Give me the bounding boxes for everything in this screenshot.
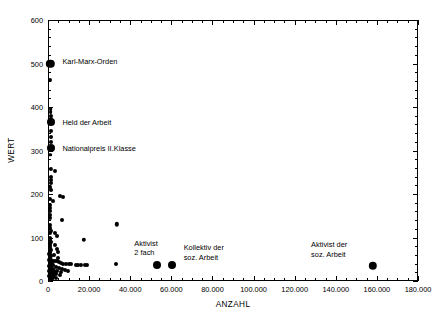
- y-tick-right: [415, 203, 418, 204]
- x-tick: [120, 278, 121, 281]
- x-tick-top: [408, 20, 409, 23]
- y-tick-right: [413, 64, 418, 65]
- y-tick-right: [415, 229, 418, 230]
- x-tick-top: [315, 20, 316, 23]
- y-tick-label: 500: [20, 59, 43, 68]
- x-tick-top: [202, 20, 203, 23]
- y-tick-right: [415, 116, 418, 117]
- y-tick-right: [415, 55, 418, 56]
- data-point: [168, 261, 176, 269]
- x-tick: [182, 278, 183, 281]
- y-tick: [48, 159, 51, 160]
- y-tick: [48, 20, 53, 21]
- data-point: [47, 118, 55, 126]
- x-tick-label: 80.000: [201, 285, 224, 294]
- y-tick: [48, 37, 51, 38]
- x-tick-top: [212, 20, 213, 25]
- data-point: [48, 278, 52, 282]
- x-tick-top: [254, 20, 255, 25]
- y-tick-label: 0: [20, 277, 43, 286]
- y-tick-right: [415, 37, 418, 38]
- x-tick-top: [130, 20, 131, 25]
- y-tick-label: 200: [20, 190, 43, 199]
- x-tick: [326, 278, 327, 281]
- data-point: [85, 263, 89, 267]
- y-tick-right: [413, 107, 418, 108]
- x-tick-top: [243, 20, 244, 23]
- x-tick-top: [223, 20, 224, 23]
- x-tick: [274, 278, 275, 281]
- y-tick: [48, 194, 53, 195]
- x-tick-top: [326, 20, 327, 23]
- y-tick-right: [415, 272, 418, 273]
- x-tick-label: 140.000: [322, 285, 349, 294]
- x-tick-top: [356, 20, 357, 23]
- y-tick: [48, 90, 51, 91]
- x-tick-top: [387, 20, 388, 23]
- y-tick-right: [415, 133, 418, 134]
- data-point: [66, 269, 70, 273]
- x-tick: [315, 278, 316, 281]
- y-tick-right: [413, 238, 418, 239]
- y-tick: [48, 55, 51, 56]
- x-tick-top: [346, 20, 347, 23]
- x-tick: [418, 276, 419, 281]
- data-point: [47, 264, 51, 268]
- y-tick-label: 600: [20, 16, 43, 25]
- x-tick-top: [305, 20, 306, 23]
- data-point: [49, 140, 53, 144]
- y-axis-title: WERT: [7, 137, 16, 163]
- y-tick-right: [415, 124, 418, 125]
- x-tick-top: [79, 20, 80, 23]
- y-tick-right: [415, 29, 418, 30]
- x-tick-label: 180.000: [405, 285, 432, 294]
- x-tick-label: 120.000: [281, 285, 308, 294]
- y-tick-right: [415, 98, 418, 99]
- annotation-label: Held der Arbeit: [62, 118, 111, 127]
- x-tick: [264, 278, 265, 281]
- x-tick-top: [264, 20, 265, 23]
- y-tick-right: [415, 246, 418, 247]
- y-tick-right: [415, 220, 418, 221]
- y-tick-right: [413, 151, 418, 152]
- x-tick: [89, 276, 90, 281]
- data-point: [47, 252, 51, 256]
- x-tick: [110, 278, 111, 281]
- y-tick-right: [413, 194, 418, 195]
- x-tick: [243, 278, 244, 281]
- x-tick-top: [377, 20, 378, 25]
- y-tick-right: [415, 264, 418, 265]
- data-point: [47, 258, 51, 262]
- x-tick-top: [89, 20, 90, 25]
- x-tick: [295, 276, 296, 281]
- data-point: [61, 195, 65, 199]
- y-tick-label: 300: [20, 146, 43, 155]
- x-tick-top: [161, 20, 162, 23]
- x-tick: [408, 278, 409, 281]
- x-tick-label: 20.000: [78, 285, 101, 294]
- data-point: [60, 218, 64, 222]
- data-point: [55, 234, 59, 238]
- x-tick-top: [58, 20, 59, 23]
- y-tick-right: [415, 81, 418, 82]
- x-tick: [223, 278, 224, 281]
- annotation-label: Karl-Marx-Orden: [62, 57, 117, 66]
- x-tick-top: [171, 20, 172, 25]
- y-tick: [48, 29, 51, 30]
- x-tick: [161, 278, 162, 281]
- y-tick-right: [415, 159, 418, 160]
- x-tick: [192, 278, 193, 281]
- x-tick: [305, 278, 306, 281]
- data-point: [47, 144, 55, 152]
- y-tick-right: [413, 281, 418, 282]
- y-tick-right: [415, 185, 418, 186]
- x-tick: [387, 278, 388, 281]
- y-tick-right: [415, 142, 418, 143]
- y-tick: [48, 72, 51, 73]
- x-tick-top: [151, 20, 152, 23]
- data-point: [49, 188, 53, 192]
- x-tick-label: 0: [46, 285, 50, 294]
- x-tick: [356, 278, 357, 281]
- x-tick: [151, 278, 152, 281]
- x-tick-top: [418, 20, 419, 25]
